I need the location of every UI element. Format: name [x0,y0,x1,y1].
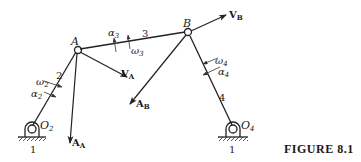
omega3-arrow-icon [128,35,130,49]
label-aa: AA [71,137,86,150]
label-link-4: 4 [219,92,225,103]
label-ground-left: 1 [30,144,36,155]
pivot-pin-o4 [229,125,237,133]
label-omega3: ω3 [131,45,144,58]
pivot-bracket-o2 [25,122,39,137]
link-4-rocker [190,36,232,125]
label-ground-right: 1 [229,144,235,155]
velocity-vector-b [191,15,226,31]
label-omega2: ω2 [36,76,49,89]
four-bar-linkage-diagram: A B O2 O4 1 1 2 3 4 VA VB AA AB ω2 α2 α3… [0,0,361,162]
label-o2: O2 [40,119,54,133]
label-ab: AB [135,98,150,111]
pivot-bracket-o4 [226,122,240,137]
label-joint-b: B [182,17,191,30]
alpha3-arrow-icon [114,38,116,52]
label-alpha3: α3 [108,27,120,40]
label-link-3: 3 [142,28,148,39]
figure-caption: FIGURE 8.1 [284,142,354,156]
label-link-2: 2 [56,70,62,81]
acceleration-vector-a [70,53,77,143]
label-va: VA [120,68,135,81]
label-alpha2: α2 [31,88,43,101]
label-o4: O4 [241,119,255,133]
label-joint-a: A [70,35,79,48]
link-2-crank [33,52,76,125]
label-vb: VB [228,9,243,22]
pivot-pin-o2 [28,125,36,133]
velocity-vector-a [80,52,127,77]
